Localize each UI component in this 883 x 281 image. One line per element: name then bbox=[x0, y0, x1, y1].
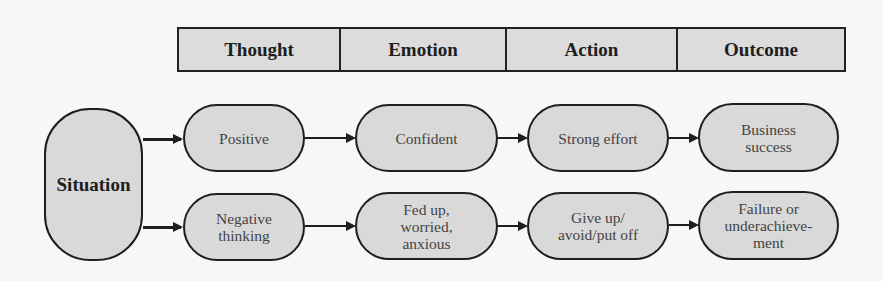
header-thought: Thought bbox=[179, 29, 339, 70]
line: anxious bbox=[402, 235, 450, 252]
node-label: Negative thinking bbox=[216, 210, 272, 244]
line: Business bbox=[741, 121, 796, 138]
arrow-situation-to-negative bbox=[143, 226, 181, 229]
line: Fed up, bbox=[403, 201, 450, 218]
node-positive-outcome: Business success bbox=[698, 103, 839, 172]
node-label: Confident bbox=[396, 130, 458, 147]
situation-node: Situation bbox=[44, 108, 143, 261]
node-negative-outcome: Failure or underachieve- ment bbox=[698, 191, 839, 260]
arrow-emotion-to-action-bottom bbox=[498, 225, 526, 227]
line: Failure or bbox=[738, 200, 799, 217]
line: ment bbox=[753, 234, 784, 251]
arrow-thought-to-emotion-bottom bbox=[305, 225, 354, 227]
node-label: Give up/ avoid/put off bbox=[558, 209, 638, 243]
node-label: Positive bbox=[219, 130, 269, 147]
line: worried, bbox=[400, 218, 452, 235]
arrow-emotion-to-action-top bbox=[498, 137, 526, 139]
node-negative-thought: Negative thinking bbox=[183, 193, 305, 261]
node-label: Strong effort bbox=[558, 130, 637, 147]
node-positive-thought: Positive bbox=[183, 104, 305, 172]
stage-header: Thought Emotion Action Outcome bbox=[177, 27, 846, 72]
line: Give up/ bbox=[571, 209, 625, 226]
node-positive-emotion: Confident bbox=[355, 104, 498, 172]
node-label: Business success bbox=[741, 121, 796, 155]
arrow-situation-to-positive bbox=[143, 138, 181, 141]
header-outcome: Outcome bbox=[676, 29, 844, 70]
arrow-action-to-outcome-bottom bbox=[669, 224, 697, 226]
node-negative-emotion: Fed up, worried, anxious bbox=[355, 192, 498, 260]
arrow-thought-to-emotion-top bbox=[305, 137, 354, 139]
line: success bbox=[745, 138, 792, 155]
node-positive-action: Strong effort bbox=[527, 104, 669, 172]
arrow-action-to-outcome-top bbox=[669, 137, 697, 139]
node-label: Failure or underachieve- ment bbox=[725, 200, 813, 251]
line: thinking bbox=[218, 227, 270, 244]
line: avoid/put off bbox=[558, 226, 638, 243]
line: underachieve- bbox=[725, 217, 813, 234]
header-emotion: Emotion bbox=[339, 29, 505, 70]
header-action: Action bbox=[505, 29, 676, 70]
node-negative-action: Give up/ avoid/put off bbox=[527, 192, 669, 260]
line: Negative bbox=[216, 210, 272, 227]
node-label: Fed up, worried, anxious bbox=[400, 201, 452, 252]
